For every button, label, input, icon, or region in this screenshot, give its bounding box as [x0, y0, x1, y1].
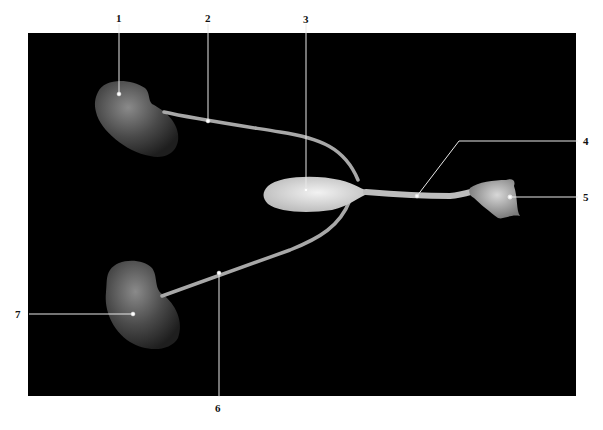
label-6-ureter: 6 [215, 403, 221, 414]
lower-kidney [106, 261, 180, 349]
label-5-penis: 5 [583, 192, 589, 203]
label-4-urethra: 4 [583, 136, 589, 147]
label-2-ureter: 2 [205, 13, 211, 24]
lower-ureter [162, 200, 350, 296]
label-1-kidney: 1 [116, 13, 122, 24]
penis [469, 179, 520, 218]
specimen-illustration [0, 0, 603, 430]
upper-ureter [164, 112, 358, 180]
bladder [264, 177, 373, 212]
upper-kidney [95, 81, 178, 157]
label-3-bladder: 3 [303, 14, 309, 25]
urethra [366, 190, 478, 196]
label-7-kidney: 7 [15, 309, 21, 320]
